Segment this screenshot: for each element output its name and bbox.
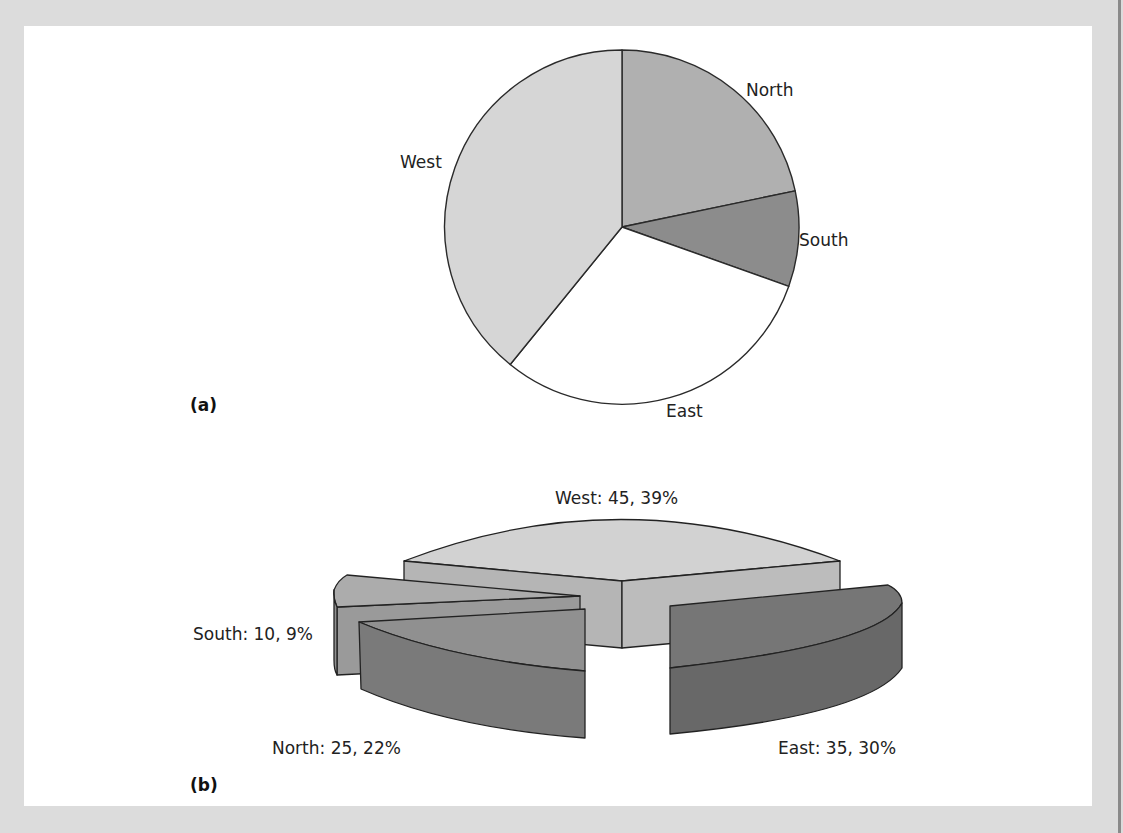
label3d-west: West: 45, 39% (555, 488, 678, 508)
pie3d-slice-east (670, 585, 902, 734)
label-south: South (799, 230, 848, 250)
pie-chart-b (334, 520, 902, 739)
pie3d-slice-north (359, 609, 585, 738)
figure-canvas: North South East West (a) West: 45, 39% … (0, 0, 1123, 833)
label-east: East (666, 401, 703, 421)
pie-chart-a (445, 50, 799, 404)
label3d-east: East: 35, 30% (778, 738, 896, 758)
panel-label-a: (a) (190, 395, 217, 415)
label-north: North (746, 80, 794, 100)
panel-label-b: (b) (190, 775, 218, 795)
label-west: West (400, 152, 442, 172)
label3d-south: South: 10, 9% (193, 624, 313, 644)
label3d-north: North: 25, 22% (272, 738, 401, 758)
